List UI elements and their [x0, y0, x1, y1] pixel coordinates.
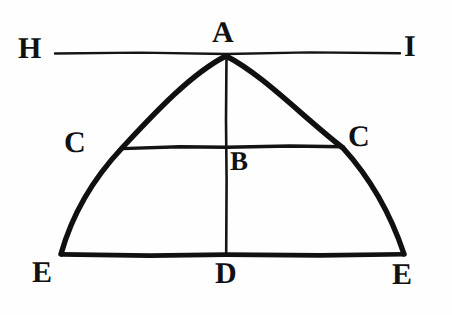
point-label-E-left: E	[32, 258, 52, 288]
point-label-I: I	[404, 32, 416, 62]
point-label-C-left: C	[64, 128, 86, 158]
point-label-C-right: C	[348, 122, 370, 152]
point-label-H: H	[18, 34, 41, 64]
base-line-EE	[61, 254, 404, 255]
apex-point-marker	[223, 53, 229, 59]
point-label-A: A	[212, 18, 234, 48]
axis-line-AD	[226, 55, 227, 254]
point-label-B: B	[230, 148, 248, 175]
point-label-E-right: E	[392, 260, 412, 290]
point-label-D: D	[215, 259, 237, 289]
geometric-figure: H A I C C B E D E	[0, 0, 452, 315]
